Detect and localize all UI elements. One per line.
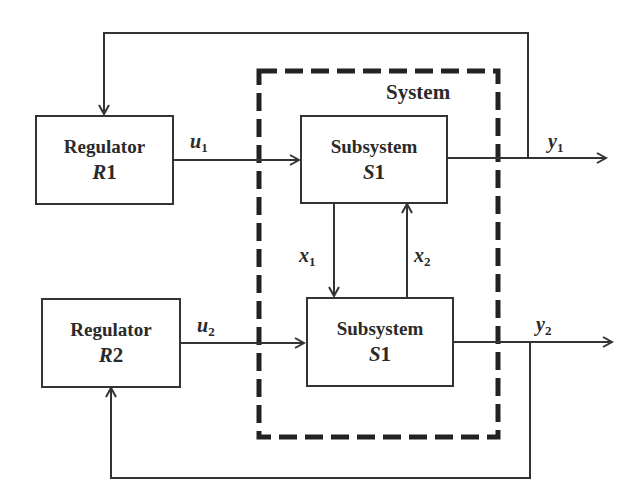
subsystem-bottom-block: Subsystem S1 xyxy=(306,297,454,387)
signal-u1-label: u1 xyxy=(190,130,208,156)
system-label: System xyxy=(386,80,450,105)
subsystem-bottom-symbol: S1 xyxy=(369,341,391,367)
regulator-r1-symbol: R1 xyxy=(92,159,117,185)
connection-lines xyxy=(0,0,641,503)
regulator-r1-title: Regulator xyxy=(64,135,145,159)
subsystem-top-title: Subsystem xyxy=(331,135,418,159)
subsystem-bottom-title: Subsystem xyxy=(337,317,424,341)
subsystem-top-symbol: S1 xyxy=(363,159,385,185)
signal-y2-label: y2 xyxy=(536,313,551,339)
signal-x1-label: x1 xyxy=(299,244,316,270)
regulator-r2-title: Regulator xyxy=(70,318,151,342)
signal-y1-label: y1 xyxy=(548,130,563,156)
regulator-r2-block: Regulator R2 xyxy=(41,298,181,388)
signal-x2-label: x2 xyxy=(414,244,431,270)
regulator-r1-block: Regulator R1 xyxy=(35,115,174,205)
subsystem-top-block: Subsystem S1 xyxy=(300,115,448,204)
regulator-r2-symbol: R2 xyxy=(99,342,124,368)
signal-u2-label: u2 xyxy=(197,314,215,340)
